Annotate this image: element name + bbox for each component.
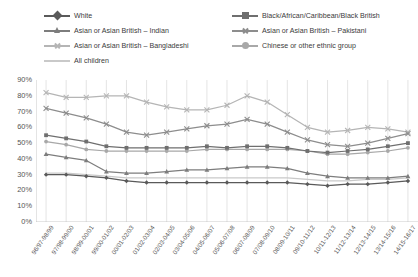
chart-container: WhiteBlack/African/Caribbean/Black Briti…: [0, 0, 418, 277]
legend-item[interactable]: Asian or Asian British – Pakistani: [232, 25, 366, 36]
data-point: [64, 143, 68, 147]
data-point: [185, 180, 189, 184]
y-axis-tick-label: 0%: [0, 218, 32, 225]
legend-item[interactable]: Asian or Asian British – Indian: [44, 25, 169, 36]
chart-legend: WhiteBlack/African/Caribbean/Black Briti…: [44, 10, 416, 72]
plot-area: [36, 80, 418, 222]
data-point: [225, 180, 229, 184]
data-point: [104, 144, 108, 148]
data-point: [205, 180, 209, 184]
legend-item[interactable]: White: [44, 10, 92, 21]
y-axis-tick-label: 40%: [0, 155, 32, 162]
data-point: [84, 148, 88, 152]
data-point: [386, 180, 390, 184]
legend-marker-icon: [232, 10, 258, 21]
y-axis: 90%80%70%60%50%40%30%20%10%0%: [0, 74, 34, 228]
legend-label: Asian or Asian British – Pakistani: [262, 27, 366, 35]
legend-label: All children: [74, 57, 109, 65]
data-point: [245, 180, 249, 184]
legend-label: Asian or Asian British – Indian: [74, 27, 169, 35]
data-point: [325, 184, 329, 188]
y-axis-tick-label: 60%: [0, 123, 32, 130]
data-point: [205, 144, 209, 148]
legend-marker-icon: [44, 10, 70, 21]
data-point: [164, 180, 168, 184]
data-point: [386, 149, 390, 153]
legend-marker-icon: [232, 25, 258, 36]
legend-label: Chinese or other ethnic group: [262, 42, 356, 50]
data-point: [285, 180, 289, 184]
legend-marker-icon: [44, 25, 70, 36]
y-axis-tick-label: 70%: [0, 108, 32, 115]
data-point: [345, 182, 349, 186]
data-point: [386, 144, 390, 148]
legend-label: Asian or Asian British – Bangladeshi: [74, 42, 189, 50]
data-point: [225, 146, 229, 150]
data-point: [306, 149, 310, 153]
data-point: [144, 180, 148, 184]
data-point: [124, 179, 128, 183]
data-point: [406, 179, 410, 183]
legend-item[interactable]: Black/African/Caribbean/Black British: [232, 10, 380, 21]
y-axis-tick-label: 90%: [0, 76, 32, 83]
data-point: [285, 146, 289, 150]
data-point: [305, 182, 309, 186]
data-point: [245, 144, 249, 148]
data-point: [265, 144, 269, 148]
data-point: [406, 146, 410, 150]
y-axis-tick-label: 20%: [0, 186, 32, 193]
legend-item[interactable]: Asian or Asian British – Bangladeshi: [44, 40, 189, 51]
legend-label: Black/African/Caribbean/Black British: [262, 12, 380, 20]
legend-item[interactable]: All children: [44, 55, 109, 66]
legend-label: White: [74, 12, 92, 20]
data-point: [366, 148, 370, 152]
series-canvas: [36, 80, 418, 222]
legend-marker-icon: [232, 40, 258, 51]
y-axis-tick-label: 10%: [0, 202, 32, 209]
y-axis-tick-label: 30%: [0, 171, 32, 178]
data-point: [165, 146, 169, 150]
data-point: [64, 136, 68, 140]
legend-marker-icon: [44, 40, 70, 51]
data-point: [326, 151, 330, 155]
data-point: [44, 140, 48, 144]
data-point: [185, 146, 189, 150]
data-point: [125, 146, 129, 150]
data-point: [104, 149, 108, 153]
y-axis-tick-label: 50%: [0, 139, 32, 146]
data-point: [265, 180, 269, 184]
data-point: [145, 146, 149, 150]
data-point: [406, 141, 410, 145]
x-axis: 96/97-98/9997/98-99/0098/99-00/0199/00-0…: [36, 224, 418, 277]
data-point: [346, 149, 350, 153]
legend-item[interactable]: Chinese or other ethnic group: [232, 40, 356, 51]
legend-marker-icon: [44, 55, 70, 66]
data-point: [84, 140, 88, 144]
y-axis-tick-label: 80%: [0, 92, 32, 99]
data-point: [44, 133, 48, 137]
data-point: [366, 182, 370, 186]
